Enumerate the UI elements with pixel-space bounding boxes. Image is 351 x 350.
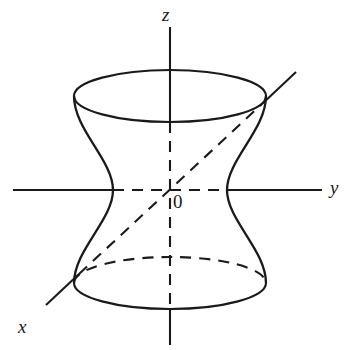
hyperboloid-diagram-svg — [0, 0, 351, 350]
y-axis-label: y — [330, 178, 338, 197]
z-axis-label: z — [162, 5, 169, 24]
x-axis-label: x — [18, 317, 26, 336]
origin-label: 0 — [173, 192, 183, 211]
hyperboloid-figure: z y x 0 — [0, 0, 351, 350]
x-axis-far-solid-segment — [262, 72, 296, 104]
